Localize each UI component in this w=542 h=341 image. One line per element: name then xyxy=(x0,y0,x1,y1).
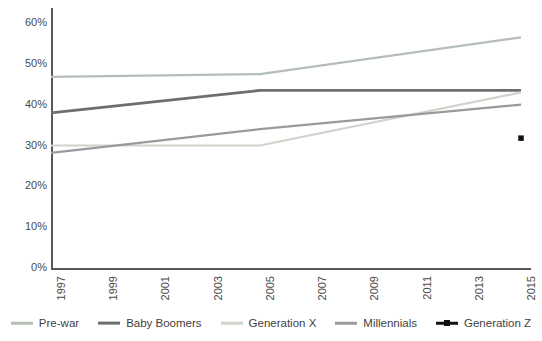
series-line-baby-boomers xyxy=(51,90,521,112)
chart-legend: Pre-warBaby BoomersGeneration XMillennia… xyxy=(0,311,542,335)
legend-swatch-icon xyxy=(11,319,33,328)
legend-item[interactable]: Generation Z xyxy=(436,317,531,329)
legend-label: Generation X xyxy=(249,317,317,329)
legend-swatch-icon xyxy=(335,319,357,328)
series-marker-generation-z xyxy=(518,135,524,141)
legend-label: Pre-war xyxy=(39,317,79,329)
legend-item[interactable]: Millennials xyxy=(335,317,417,329)
legend-item[interactable]: Generation X xyxy=(221,317,317,329)
legend-label: Millennials xyxy=(363,317,417,329)
legend-marker-dot-icon xyxy=(444,320,450,326)
series-line-pre-war xyxy=(51,37,521,77)
legend-label: Generation Z xyxy=(464,317,531,329)
series-line-generation-x xyxy=(51,92,521,145)
legend-item[interactable]: Pre-war xyxy=(11,317,79,329)
legend-swatch-icon xyxy=(221,319,243,328)
legend-item[interactable]: Baby Boomers xyxy=(98,317,201,329)
legend-label: Baby Boomers xyxy=(126,317,201,329)
legend-swatch-icon xyxy=(436,319,458,328)
series-line-millennials xyxy=(51,105,521,153)
chart-plot xyxy=(0,0,542,341)
chart-container: 0%10%20%30%40%50%60% 1997199920012003200… xyxy=(0,0,542,341)
legend-swatch-icon xyxy=(98,319,120,328)
